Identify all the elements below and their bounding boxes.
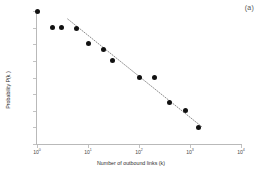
y-tick-mark [33, 144, 36, 145]
data-point [196, 125, 201, 130]
data-point [183, 108, 188, 113]
x-tick-label: 104 [237, 148, 245, 155]
y-tick-mark [33, 44, 36, 45]
data-point [167, 100, 172, 105]
data-point [86, 41, 91, 46]
y-tick-mark [33, 78, 36, 79]
y-tick-mark [33, 111, 36, 112]
data-point [137, 75, 142, 80]
x-axis-label: Number of outbound links (k) [0, 160, 262, 166]
data-point [74, 26, 79, 31]
data-point [50, 25, 55, 30]
y-tick-mark [33, 94, 36, 95]
y-tick-mark [33, 127, 36, 128]
data-point [101, 47, 106, 52]
panel-label: (a) [245, 4, 254, 11]
x-tick-label: 103 [186, 148, 194, 155]
x-tick-label: 100 [33, 148, 41, 155]
data-point [152, 75, 157, 80]
y-axis-label: Probability P(k ) [5, 45, 11, 135]
data-point [59, 25, 64, 30]
x-tick-label: 102 [135, 148, 143, 155]
y-axis-line [36, 10, 37, 145]
y-tick-mark [33, 28, 36, 29]
y-tick-mark [33, 61, 36, 62]
x-tick-label: 101 [84, 148, 92, 155]
data-point [35, 9, 40, 14]
data-point [110, 58, 115, 63]
figure-panel: (a) 10010-110-210-310-410-510-610-710-8 … [0, 0, 262, 179]
